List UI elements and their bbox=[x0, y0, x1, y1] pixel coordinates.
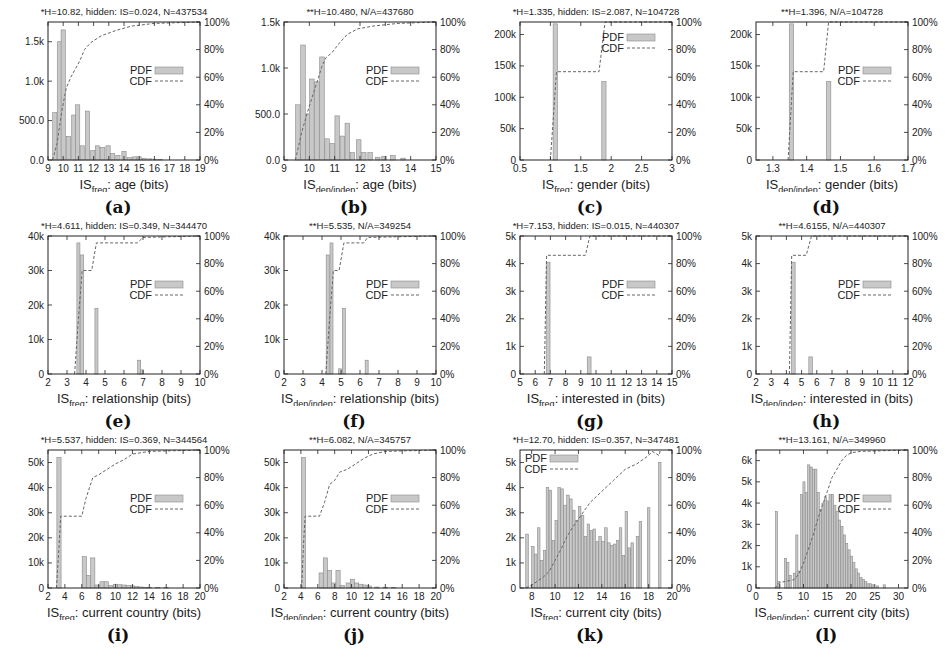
x-tick-label: 5 bbox=[102, 377, 108, 388]
x-tick-label: 3 bbox=[300, 377, 306, 388]
pdf-bars bbox=[789, 24, 831, 160]
chart-panel-e: *H=4.611, hidden: IS=0.349, N=3444702345… bbox=[0, 216, 236, 406]
chart-title: **H=13.161, N/A=349960 bbox=[778, 434, 885, 445]
x-tick-label: 16 bbox=[397, 591, 409, 602]
y2-tick-label: 20% bbox=[676, 127, 696, 138]
y2-tick-label: 80% bbox=[676, 44, 696, 55]
pdf-bar bbox=[95, 308, 98, 374]
y-tick-label: 40k bbox=[264, 231, 281, 242]
pdf-bar bbox=[355, 583, 359, 588]
x-tick-label: 5 bbox=[777, 591, 783, 602]
x-tick-label: 1 bbox=[548, 163, 554, 174]
pdf-bar bbox=[332, 583, 336, 588]
x-tick-label: 12 bbox=[127, 591, 139, 602]
y2-tick-label: 60% bbox=[912, 286, 932, 297]
pdf-bar bbox=[801, 495, 803, 588]
chart-svg: *H=10.82, hidden: IS=0.024, N=4375349101… bbox=[0, 2, 236, 192]
x-tick-label: 2 bbox=[45, 377, 51, 388]
legend: PDFCDF bbox=[129, 278, 183, 301]
chart-title: *H=5.537, hidden: IS=0.369, N=344564 bbox=[41, 434, 208, 445]
y2-tick-label: 80% bbox=[912, 44, 932, 55]
y2-tick-label: 20% bbox=[204, 555, 224, 566]
chart-svg: *H=5.537, hidden: IS=0.369, N=3445642468… bbox=[0, 430, 236, 620]
pdf-bar bbox=[599, 537, 602, 588]
chart-panel-d: **H=1.396, N/A=1047281.31.41.51.61.7050k… bbox=[708, 2, 944, 192]
y-tick-label: 1.5k bbox=[261, 17, 281, 28]
pdf-bar bbox=[86, 575, 90, 588]
pdf-bars bbox=[546, 262, 591, 374]
chart-panel-i: *H=5.537, hidden: IS=0.369, N=3445642468… bbox=[0, 430, 236, 620]
legend-cdf-label: CDF bbox=[601, 42, 624, 54]
y2-tick-label: 20% bbox=[204, 127, 224, 138]
chart-panel-a: *H=10.82, hidden: IS=0.024, N=4375349101… bbox=[0, 2, 236, 192]
y2-tick-label: 0% bbox=[440, 155, 455, 166]
pdf-bar bbox=[587, 357, 591, 374]
pdf-bar bbox=[567, 495, 570, 588]
x-axis-label: ISfreq: gender (bits) bbox=[542, 177, 650, 192]
x-tick-label: 8 bbox=[563, 377, 569, 388]
legend-pdf-swatch bbox=[863, 67, 891, 74]
cdf-line bbox=[75, 236, 200, 374]
x-tick-label: 3 bbox=[64, 377, 70, 388]
pdf-bar bbox=[775, 512, 777, 588]
chart-panel-b: **H=10.480, N/A=43768091011121314150.050… bbox=[236, 2, 472, 192]
x-tick-label: 14 bbox=[405, 163, 417, 174]
y-tick-label: 5k bbox=[741, 476, 753, 487]
x-axis-label: ISdep/indep: current city (bits) bbox=[754, 605, 909, 620]
pdf-bar bbox=[843, 535, 845, 588]
x-tick-label: 12 bbox=[88, 163, 100, 174]
pdf-bar bbox=[342, 308, 345, 374]
x-tick-label: 10 bbox=[798, 591, 810, 602]
plot-frame bbox=[520, 22, 672, 160]
y2-tick-label: 100% bbox=[676, 231, 702, 242]
cdf-line bbox=[789, 236, 908, 374]
x-tick-label: 6 bbox=[121, 377, 127, 388]
y2-tick-label: 100% bbox=[440, 445, 466, 456]
x-tick-label: 7 bbox=[376, 377, 382, 388]
y2-tick-label: 20% bbox=[676, 341, 696, 352]
x-tick-label: 4 bbox=[83, 377, 89, 388]
y-tick-label: 0 bbox=[746, 369, 752, 380]
y2-tick-label: 0% bbox=[440, 369, 455, 380]
y-tick-label: 1k bbox=[741, 561, 753, 572]
pdf-bar bbox=[817, 492, 819, 588]
legend-pdf-swatch bbox=[155, 495, 183, 502]
pdf-bar bbox=[860, 577, 862, 588]
pdf-bar bbox=[826, 82, 830, 160]
pdf-bar bbox=[824, 497, 826, 588]
y2-tick-label: 60% bbox=[440, 500, 460, 511]
x-tick-label: 8 bbox=[332, 591, 338, 602]
y-tick-label: 1.0k bbox=[25, 76, 45, 87]
pdf-bar bbox=[593, 529, 596, 588]
subfigure-caption-i: (i) bbox=[0, 625, 236, 645]
pdf-bar bbox=[862, 580, 864, 588]
pdf-bar bbox=[315, 82, 320, 160]
legend-cdf-label: CDF bbox=[601, 289, 624, 301]
pdf-bars bbox=[77, 243, 144, 374]
pdf-bar bbox=[335, 116, 340, 160]
pdf-bar bbox=[350, 579, 354, 588]
y2-tick-label: 20% bbox=[440, 127, 460, 138]
legend-pdf-swatch bbox=[155, 67, 183, 74]
x-tick-label: 2 bbox=[45, 591, 51, 602]
y-tick-label: 30k bbox=[28, 507, 45, 518]
chart-panel-l: **H=13.161, N/A=34996005101520253001k2k3… bbox=[708, 430, 944, 620]
legend-cdf-label: CDF bbox=[837, 503, 860, 515]
y-tick-label: 20k bbox=[28, 532, 45, 543]
y-tick-label: 2k bbox=[741, 313, 753, 324]
x-tick-label: 10 bbox=[872, 377, 884, 388]
x-tick-label: 5 bbox=[799, 377, 805, 388]
plot-frame bbox=[284, 236, 436, 374]
x-tick-label: 1.5 bbox=[574, 163, 588, 174]
y2-tick-label: 40% bbox=[440, 527, 460, 538]
pdf-bar bbox=[855, 569, 857, 588]
pdf-bar bbox=[789, 24, 793, 160]
legend-pdf-swatch bbox=[391, 281, 419, 288]
pdf-bar bbox=[319, 573, 323, 588]
chart-panel-c: *H=1.335, hidden: IS=2.087, N=1047280.51… bbox=[472, 2, 708, 192]
y-tick-label: 100k bbox=[494, 92, 517, 103]
y-tick-label: 150k bbox=[494, 60, 517, 71]
y2-tick-label: 40% bbox=[204, 527, 224, 538]
y-tick-label: 4k bbox=[505, 482, 517, 493]
pdf-bar bbox=[658, 463, 661, 588]
